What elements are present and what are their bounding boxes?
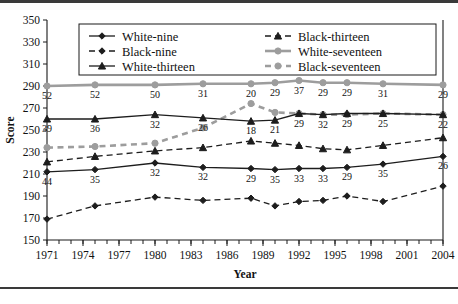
data-point-label: 25 (378, 118, 388, 129)
data-point (380, 81, 386, 87)
data-point-label: 29 (294, 118, 304, 129)
data-point (440, 153, 446, 159)
data-point (248, 165, 254, 171)
y-axis-title: Score (4, 116, 16, 143)
data-point-label: 32 (150, 119, 160, 130)
data-point (380, 198, 386, 204)
data-point-label: 52 (90, 89, 100, 100)
data-point (44, 145, 50, 151)
y-tick-label: 230 (23, 146, 41, 158)
data-point (272, 166, 278, 172)
x-tick-label: 1983 (180, 249, 203, 261)
data-point-label: 35 (378, 168, 388, 179)
data-point (344, 80, 350, 86)
y-tick-label: 270 (23, 102, 41, 114)
data-point (272, 109, 278, 115)
data-point (92, 143, 98, 149)
data-point-label: 31 (378, 88, 388, 99)
legend-label: White-thirteen (122, 60, 196, 74)
plot-area: 1501701902102302502702903103303501971197… (0, 10, 458, 282)
data-point-label: 33 (318, 173, 328, 184)
data-point (152, 82, 158, 88)
data-point-label: 26 (438, 160, 448, 171)
legend-label: White-nine (122, 30, 179, 44)
data-point (320, 165, 326, 171)
data-point (92, 203, 98, 209)
data-point (152, 140, 158, 146)
data-point (380, 161, 386, 167)
y-tick-label: 210 (23, 168, 41, 180)
data-point-label: 33 (294, 173, 304, 184)
chart-figure: 1501701902102302502702903103303501971197… (0, 0, 458, 304)
x-tick-label: 1986 (216, 249, 239, 261)
y-tick-label: 250 (23, 124, 41, 136)
data-point-label: 39 (42, 123, 52, 134)
data-point (272, 203, 278, 209)
y-tick-label: 290 (23, 80, 41, 92)
y-tick-label: 150 (23, 234, 41, 246)
data-point (200, 164, 206, 170)
point-labels-white-nine: 4435323229353333293526 (42, 160, 448, 186)
legend-marker (275, 48, 281, 54)
x-tick-label: 1998 (360, 249, 383, 261)
data-point-label: 29 (246, 173, 256, 184)
data-point-label: 20 (246, 88, 256, 99)
data-point-label: 18 (246, 125, 256, 136)
y-tick-label: 330 (23, 36, 41, 48)
data-point-label: 22 (438, 119, 448, 130)
data-point-label: 32 (150, 167, 160, 178)
data-point-label: 29 (438, 89, 448, 100)
data-point-label: 21 (270, 124, 280, 135)
y-tick-label: 190 (23, 190, 41, 202)
data-point-label: 35 (270, 174, 280, 185)
x-axis-title: Year (234, 268, 257, 280)
data-point (200, 197, 206, 203)
data-point (320, 80, 326, 86)
data-point (44, 216, 50, 222)
data-point (248, 195, 254, 201)
data-point (296, 77, 302, 83)
x-tick-label: 1992 (288, 249, 311, 261)
data-point (248, 81, 254, 87)
data-point (248, 101, 254, 107)
data-point (272, 80, 278, 86)
data-point (296, 165, 302, 171)
data-point-label: 50 (150, 89, 160, 100)
legend-label: White-seventeen (298, 45, 383, 59)
data-point-label: 37 (294, 85, 304, 96)
x-tick-label: 1989 (252, 249, 275, 261)
data-point (344, 164, 350, 170)
data-point (152, 160, 158, 166)
legend-label: Black-nine (122, 45, 177, 59)
data-point-label: 36 (90, 123, 100, 134)
legend-label: Black-thirteen (298, 30, 370, 44)
x-tick-label: 2001 (396, 249, 419, 261)
data-point-label: 29 (342, 118, 352, 129)
point-labels-white-seventeen: 5252503120293729293129 (42, 85, 448, 102)
y-tick-label: 170 (23, 212, 41, 224)
data-point-label: 29 (342, 87, 352, 98)
series-black-thirteen (43, 134, 446, 165)
data-point (296, 198, 302, 204)
data-point (440, 183, 446, 189)
line-chart-svg: 1501701902102302502702903103303501971197… (0, 10, 458, 282)
legend-label: Black-seventeen (298, 60, 381, 74)
data-point (152, 194, 158, 200)
data-point (344, 193, 350, 199)
x-tick-label: 1974 (72, 249, 95, 261)
series-line (47, 138, 443, 162)
data-point-label: 35 (90, 174, 100, 185)
data-point-label: 29 (270, 87, 280, 98)
x-tick-label: 1977 (108, 249, 131, 261)
top-divider-rule (0, 0, 458, 3)
data-point-label: 32 (318, 119, 328, 130)
data-point-label: 29 (342, 171, 352, 182)
legend: White-nineBlack-nineWhite-thirteenBlack-… (79, 24, 436, 75)
x-tick-label: 2004 (432, 249, 455, 261)
x-tick-label: 1980 (144, 249, 167, 261)
data-point-label: 31 (198, 88, 208, 99)
x-tick-label: 1995 (324, 249, 347, 261)
bottom-divider-rule (0, 287, 458, 289)
data-point-label: 26 (198, 122, 208, 133)
data-point (44, 83, 50, 89)
